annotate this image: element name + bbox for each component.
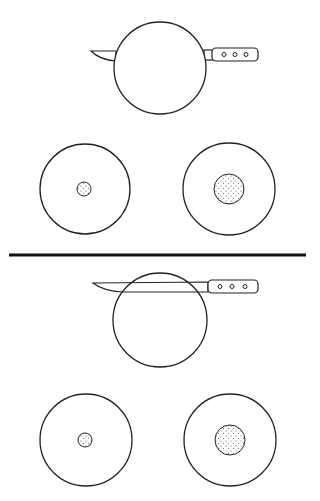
rivet-icon: [230, 285, 234, 289]
core-stipple: [215, 425, 245, 455]
core-stipple: [214, 174, 244, 204]
main-circle: [113, 273, 207, 367]
rivet-icon: [233, 53, 237, 57]
rivet-icon: [243, 285, 247, 289]
result-circle-small-core: [40, 394, 132, 486]
rivet-icon: [218, 285, 222, 289]
bottom-panel: [40, 273, 276, 486]
result-circle-large-core: [183, 143, 275, 235]
knife-blade: [91, 51, 116, 61]
top-panel: [40, 22, 275, 235]
rivet-icon: [222, 53, 226, 57]
main-circle: [114, 22, 206, 114]
result-circle-small-core: [40, 144, 130, 234]
rivet-icon: [244, 53, 248, 57]
core-stipple: [78, 433, 92, 447]
diagram-canvas: [0, 0, 320, 501]
core-stipple: [77, 182, 91, 196]
result-circle-large-core: [184, 394, 276, 486]
